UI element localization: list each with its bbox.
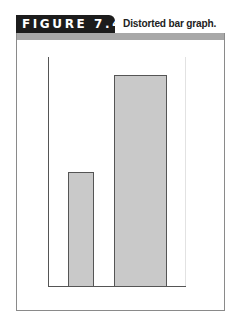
figure-label-tab: FIGURE 7.4	[16, 15, 115, 33]
bar-chart	[48, 57, 186, 287]
bar-1	[68, 172, 94, 287]
y-axis	[48, 57, 49, 287]
bar-2	[114, 75, 167, 287]
x-axis	[48, 286, 186, 287]
figure-caption: Distorted bar graph.	[123, 17, 216, 29]
figure-label: FIGURE 7.4	[22, 17, 123, 31]
header-band	[17, 33, 224, 40]
chart-right-edge	[185, 57, 186, 287]
